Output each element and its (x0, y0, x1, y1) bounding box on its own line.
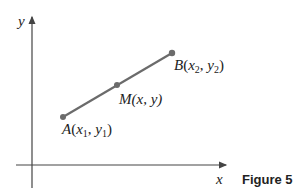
point-b (169, 50, 175, 56)
point-m (114, 82, 120, 88)
point-m-label: M(x, y) (119, 92, 162, 107)
y-axis-label: y (18, 14, 25, 29)
point-b-label: B(x2, y2) (174, 58, 224, 73)
figure-caption: Figure 5 (242, 173, 293, 186)
point-a-label: A(x1, y1) (62, 122, 112, 137)
point-a (60, 114, 66, 120)
x-axis-label: x (216, 172, 223, 187)
